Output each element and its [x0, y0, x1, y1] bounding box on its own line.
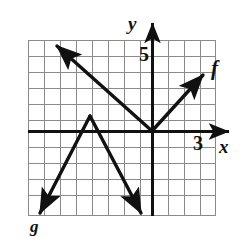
coordinate-plane: [0, 0, 244, 238]
y-axis-tick-label-5: 5: [139, 44, 149, 64]
graph-figure: y x f g 5 3: [0, 0, 244, 238]
curve-f-label: f: [211, 58, 218, 79]
x-axis-label: x: [219, 137, 229, 156]
y-axis-label: y: [128, 14, 136, 33]
grid-vertical-lines: [29, 40, 216, 216]
grid-horizontal-lines: [28, 41, 216, 216]
curve-f-right-branch: [152, 75, 203, 131]
x-axis-tick-label-3: 3: [193, 133, 203, 153]
curve-g-label: g: [30, 218, 39, 235]
